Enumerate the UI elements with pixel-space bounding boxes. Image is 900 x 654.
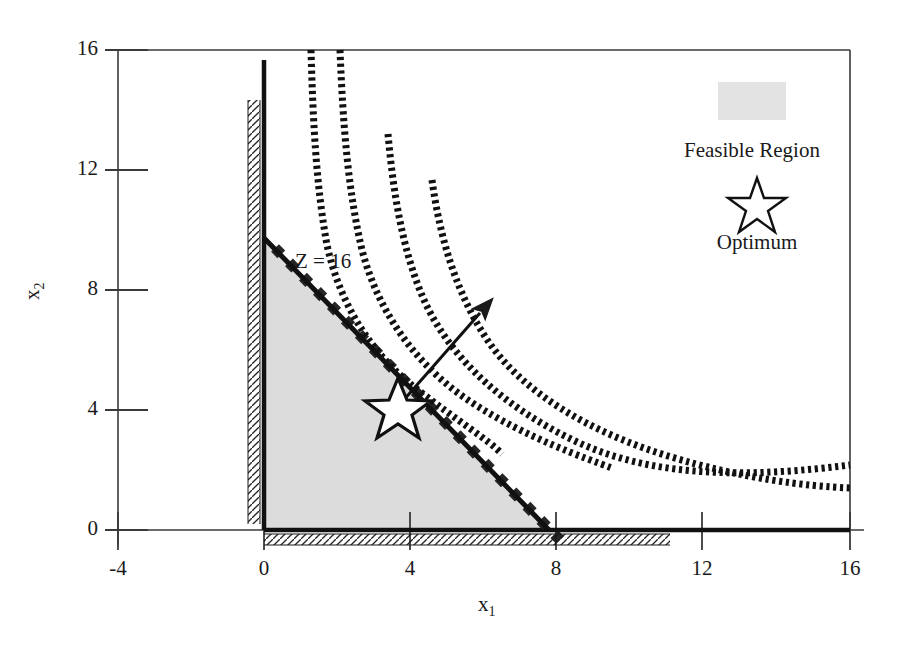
x-tick-label-16: 16 — [820, 556, 880, 581]
y-axis-title-base: x — [20, 290, 44, 301]
legend-optimum-label: Optimum — [662, 230, 852, 255]
legend-feasible-label: Feasible Region — [642, 138, 862, 163]
y-tick-label-4: 4 — [58, 396, 98, 421]
y-axis-title: x2 — [20, 283, 48, 301]
improvement-arrow — [402, 313, 480, 402]
contour-4 — [432, 180, 850, 488]
x-tick-label-neg4: -4 — [88, 556, 148, 581]
objective-value-label: Z = 16 — [295, 249, 351, 274]
x-tick-label-0: 0 — [234, 556, 294, 581]
y-tick-label-0: 0 — [58, 516, 98, 541]
y-tick-label-8: 8 — [58, 276, 98, 301]
x-tick-label-12: 12 — [672, 556, 732, 581]
contour-3 — [388, 134, 850, 473]
y-axis-title-wrap: x2 — [20, 272, 60, 312]
constraint-x1-nonneg — [248, 60, 264, 530]
x-tick-label-8: 8 — [526, 556, 586, 581]
x-axis-title: x1 — [478, 592, 496, 620]
y-tick-label-16: 16 — [58, 36, 98, 61]
legend-optimum-star — [728, 178, 786, 232]
x-axis-title-base: x — [478, 592, 489, 616]
y-axis-ticks — [105, 50, 148, 530]
y-tick-label-12: 12 — [58, 156, 98, 181]
x-axis-title-sub: 1 — [489, 604, 496, 619]
figure-root: 16 12 8 4 0 -4 0 4 8 12 16 x2 x1 Z = 16 … — [0, 0, 900, 654]
y-axis-title-sub: 2 — [32, 283, 47, 290]
legend-feasible-swatch — [718, 82, 786, 120]
x-tick-label-4: 4 — [380, 556, 440, 581]
